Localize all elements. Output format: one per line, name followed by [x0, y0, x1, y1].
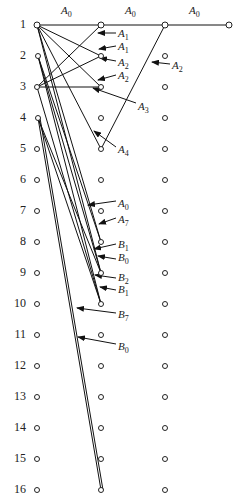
label-arrow [93, 88, 136, 103]
row-label: 3 [4, 79, 26, 94]
node [163, 364, 168, 369]
label-arrow [98, 75, 116, 80]
label-subscript: 4 [125, 149, 129, 158]
label-subscript: 0 [68, 10, 72, 19]
label-subscript: 2 [179, 65, 183, 74]
label-subscript: 7 [125, 314, 129, 323]
edge-label: B1 [118, 283, 129, 298]
label-arrow [94, 244, 116, 249]
row-label: 5 [4, 141, 26, 156]
label-base: B [118, 251, 125, 263]
node [35, 395, 40, 400]
node [35, 457, 40, 462]
node [226, 22, 232, 28]
label-subscript: 0 [125, 346, 129, 355]
row-label: 6 [4, 172, 26, 187]
row-label: 1 [4, 17, 26, 32]
node [163, 209, 168, 214]
node [99, 54, 104, 59]
row-label: 11 [4, 327, 26, 342]
label-arrow [98, 256, 116, 259]
label-arrow [100, 287, 116, 290]
label-subscript: 0 [196, 10, 200, 19]
row-label: 14 [4, 420, 26, 435]
label-base: B [118, 308, 125, 320]
label-base: A [189, 4, 196, 16]
label-base: B [118, 238, 125, 250]
node [35, 85, 40, 90]
top-edge-label: A0 [125, 4, 136, 19]
label-base: A [118, 213, 125, 225]
edge-label: A2 [172, 59, 183, 74]
node [35, 302, 40, 307]
node [35, 240, 40, 245]
node [99, 333, 104, 338]
label-arrow [94, 131, 116, 147]
label-base: A [172, 59, 179, 71]
label-base: A [118, 69, 125, 81]
node [35, 488, 40, 493]
label-subscript: 3 [145, 106, 149, 115]
edge-label: A4 [118, 143, 129, 158]
edge-label: B0 [118, 340, 129, 355]
label-subscript: 2 [125, 75, 129, 84]
edges [37, 25, 229, 490]
node [36, 54, 41, 59]
node [98, 22, 104, 28]
row-label: 12 [4, 358, 26, 373]
label-base: A [61, 4, 68, 16]
edge-label: B0 [118, 251, 129, 266]
node [99, 85, 104, 90]
node [99, 178, 104, 183]
label-arrow [77, 308, 116, 313]
row-label: 10 [4, 296, 26, 311]
node [35, 178, 40, 183]
label-subscript: 1 [125, 289, 129, 298]
node [35, 209, 40, 214]
node [163, 116, 168, 121]
row-label: 9 [4, 265, 26, 280]
edge-label: A0 [118, 197, 129, 212]
node [163, 271, 168, 276]
row-label: 7 [4, 203, 26, 218]
label-arrow [88, 201, 116, 205]
label-arrow [99, 218, 116, 224]
row-label: 8 [4, 234, 26, 249]
label-subscript: 1 [125, 46, 129, 55]
node [99, 302, 104, 307]
node [35, 333, 40, 338]
node [99, 395, 104, 400]
node [34, 22, 40, 28]
label-base: A [118, 143, 125, 155]
node [35, 364, 40, 369]
label-base: A [125, 4, 132, 16]
label-arrow [152, 62, 170, 64]
node [163, 457, 168, 462]
row-label: 13 [4, 389, 26, 404]
edge [37, 25, 101, 56]
label-base: A [118, 56, 125, 68]
top-edge-label: A0 [189, 4, 200, 19]
edge-label: A2 [118, 69, 129, 84]
node [99, 426, 104, 431]
node [163, 54, 168, 59]
node [99, 488, 104, 493]
edge [40, 118, 103, 490]
edge [38, 118, 101, 273]
node [99, 147, 104, 152]
edge-label: A1 [118, 40, 129, 55]
row-label: 4 [4, 110, 26, 125]
label-base: B [118, 340, 125, 352]
node [99, 364, 104, 369]
node [163, 488, 168, 493]
label-base: A [138, 100, 145, 112]
node [99, 240, 104, 245]
label-subscript: 0 [125, 203, 129, 212]
node [36, 116, 41, 121]
row-label: 16 [4, 482, 26, 497]
label-base: A [118, 197, 125, 209]
node [163, 333, 168, 338]
row-label: 2 [4, 48, 26, 63]
label-arrow [78, 337, 116, 344]
label-subscript: 0 [125, 257, 129, 266]
